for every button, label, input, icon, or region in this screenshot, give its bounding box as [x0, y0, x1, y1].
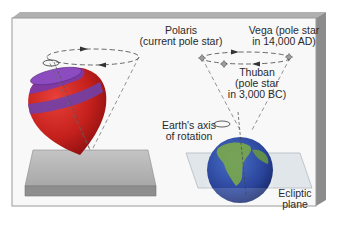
- earth-axis-label: Earth's axis of rotation: [156, 120, 222, 142]
- thuban-label-line3: in 3,000 BC): [222, 89, 292, 100]
- base-slab: [25, 150, 156, 196]
- ecliptic-plane-label: Ecliptic plane: [270, 188, 320, 210]
- polaris-label: Polaris (current pole star): [136, 25, 226, 47]
- earth-axis-label-line2: of rotation: [156, 131, 222, 142]
- polaris-label-line2: (current pole star): [136, 36, 226, 47]
- vega-label-line2: in 14,000 AD): [245, 36, 323, 47]
- precession-diagram: Polaris (current pole star) Vega (pole s…: [0, 0, 343, 227]
- vega-label: Vega (pole star in 14,000 AD): [245, 25, 323, 47]
- thuban-label: Thuban (pole star in 3,000 BC): [222, 67, 292, 100]
- ecliptic-label-line2: plane: [270, 199, 320, 210]
